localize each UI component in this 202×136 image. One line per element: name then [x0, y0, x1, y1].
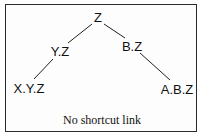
node-y-z: Y.Z — [51, 45, 70, 58]
edge-bz-abz — [140, 53, 170, 80]
node-z: Z — [94, 11, 102, 24]
node-a-b-z: A.B.Z — [161, 83, 194, 96]
node-b-z: B.Z — [122, 40, 142, 53]
node-x-y-z: X.Y.Z — [14, 82, 45, 95]
edge-yz-xyz — [34, 59, 53, 79]
diagram-caption: No shortcut link — [63, 113, 141, 128]
edge-z-bz — [104, 24, 125, 38]
edge-z-yz — [68, 24, 92, 43]
